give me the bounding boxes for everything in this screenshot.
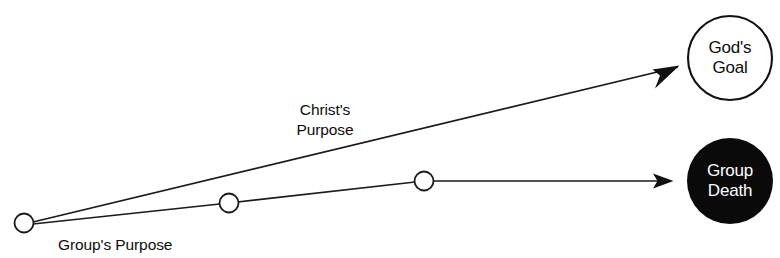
christs-purpose-arrowhead-icon — [653, 66, 680, 89]
groups-purpose-label: Group's Purpose — [58, 236, 172, 253]
diagram-canvas: God's Goal Group Death Christ's Purpose … — [0, 0, 780, 258]
gods-goal-label-line-2: Goal — [712, 58, 747, 77]
diagram-svg: God's Goal Group Death Christ's Purpose … — [0, 0, 780, 258]
christs-purpose-label: Christ's Purpose — [296, 101, 353, 138]
group-purpose-waypoint-2-circle — [415, 172, 434, 191]
christs-purpose-label-line-2: Purpose — [296, 121, 353, 138]
group-death-label-line-1: Group — [707, 161, 753, 180]
node-group-death: Group Death — [687, 138, 773, 224]
edge-christs-purpose — [33, 66, 680, 223]
christs-purpose-label-line-1: Christ's — [300, 101, 351, 118]
christs-purpose-line — [33, 67, 678, 222]
origin-waypoint-circle — [15, 214, 34, 233]
group-purpose-waypoint-1-circle — [220, 194, 239, 213]
group-death-label-line-2: Death — [708, 181, 752, 200]
groups-purpose-line — [33, 181, 670, 224]
node-gods-goal: God's Goal — [688, 16, 772, 100]
gods-goal-label-line-1: God's — [709, 38, 752, 57]
